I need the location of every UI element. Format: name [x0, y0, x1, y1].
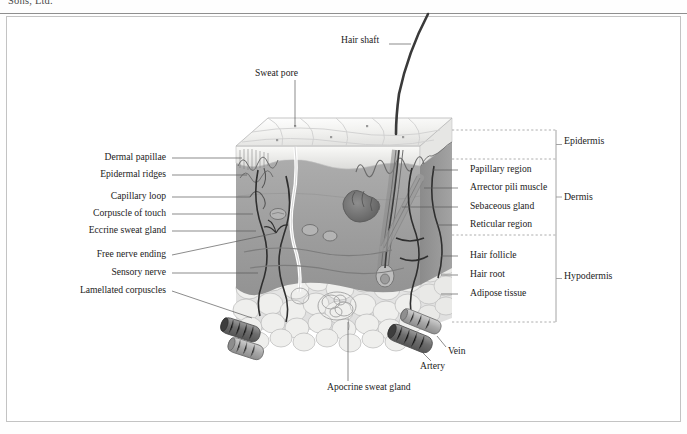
layer-bracket-epidermis: [556, 130, 562, 159]
label-artery: Artery: [420, 361, 445, 371]
label-hair-follicle: Hair follicle: [470, 250, 517, 260]
label-papillary-region: Papillary region: [470, 164, 532, 174]
label-hair-shaft: Hair shaft: [341, 35, 379, 45]
label-lamellated-corpuscles: Lamellated corpuscles: [80, 285, 166, 295]
label-epidermal-ridges: Epidermal ridges: [100, 169, 166, 179]
label-free-nerve-ending: Free nerve ending: [97, 249, 166, 259]
label-vein: Vein: [448, 346, 466, 356]
vein-leader: [437, 336, 446, 347]
label-hair-root: Hair root: [470, 269, 505, 279]
layer-label-hypodermis: Hypodermis: [564, 271, 612, 281]
label-sensory-nerve: Sensory nerve: [111, 267, 166, 277]
layer-bracket-hypodermis: [556, 235, 562, 322]
corpuscle-of-touch: [270, 209, 286, 220]
label-arrector-pili-muscle: Arrector pili muscle: [470, 182, 547, 192]
label-sweat-pore: Sweat pore: [255, 68, 298, 78]
label-adipose-tissue: Adipose tissue: [470, 288, 526, 298]
label-eccrine-sweat-gland: Eccrine sweat gland: [89, 225, 166, 235]
layer-label-epidermis: Epidermis: [564, 136, 604, 146]
label-reticular-region: Reticular region: [470, 219, 532, 229]
page-root: Sons, Ltd.: [0, 0, 687, 434]
label-corpuscle-of-touch: Corpuscle of touch: [93, 208, 166, 218]
label-dermal-papillae: Dermal papillae: [104, 152, 166, 162]
label-capillary-loop: Capillary loop: [111, 191, 166, 201]
label-sebaceous-gland: Sebaceous gland: [470, 201, 534, 211]
skin-surface-top: [236, 118, 452, 146]
layer-label-dermis: Dermis: [564, 192, 593, 202]
hair-shaft: [396, 14, 428, 134]
label-apocrine-sweat-gland: Apocrine sweat gland: [327, 382, 411, 392]
hair-root: [376, 265, 394, 287]
layer-bracket-dermis: [556, 159, 562, 235]
